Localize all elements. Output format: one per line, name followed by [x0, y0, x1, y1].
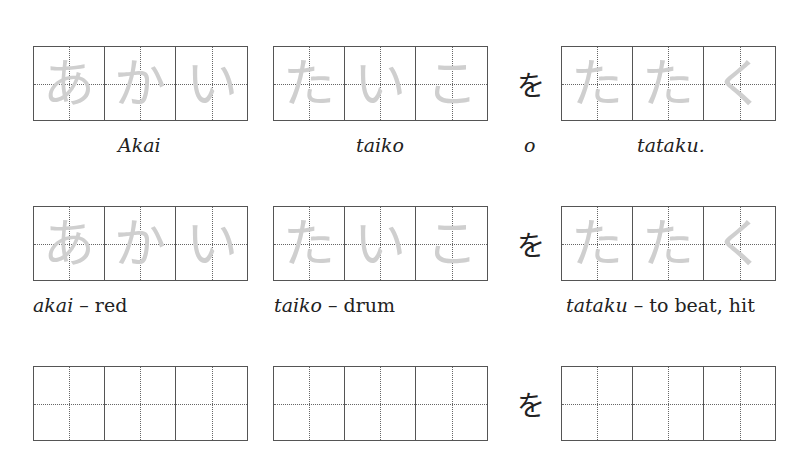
gloss-tataku: tataku – to beat, hit [566, 294, 755, 316]
practice-grid-akai-row1: あ か い [33, 46, 248, 121]
trace-kana: く [704, 47, 775, 120]
practice-cell: か [105, 47, 176, 120]
practice-cell [345, 367, 416, 440]
practice-cell [274, 367, 345, 440]
particle-wo: を [517, 224, 545, 264]
trace-kana: い [176, 47, 247, 120]
practice-cell: た [633, 207, 704, 280]
practice-cell [704, 367, 775, 440]
trace-kana: こ [416, 47, 487, 120]
practice-cell [105, 367, 176, 440]
trace-kana: あ [34, 207, 104, 280]
practice-cell: こ [416, 47, 487, 120]
gloss-akai: akai – red [33, 294, 127, 316]
caption-o: o [524, 134, 535, 156]
practice-grid-taiko-row1: た い こ [273, 46, 488, 121]
trace-kana: か [105, 207, 175, 280]
practice-cell [562, 367, 633, 440]
particle-wo: を [517, 384, 545, 424]
caption-akai: Akai [118, 134, 161, 156]
practice-cell: あ [34, 47, 105, 120]
trace-kana: た [633, 207, 703, 280]
practice-cell: い [345, 207, 416, 280]
trace-kana: こ [416, 207, 487, 280]
practice-grid-blank-2 [273, 366, 488, 441]
practice-cell: か [105, 207, 176, 280]
trace-kana: た [274, 47, 344, 120]
practice-cell: た [633, 47, 704, 120]
practice-cell: い [176, 47, 247, 120]
practice-cell: こ [416, 207, 487, 280]
practice-cell: た [562, 207, 633, 280]
practice-cell: い [176, 207, 247, 280]
practice-cell: た [274, 207, 345, 280]
practice-grid-akai-row2: あ か い [33, 206, 248, 281]
practice-grid-blank-3 [561, 366, 776, 441]
trace-kana: く [704, 207, 775, 280]
caption-tataku: tataku. [637, 134, 705, 156]
practice-cell [176, 367, 247, 440]
trace-kana: た [562, 207, 632, 280]
practice-cell: い [345, 47, 416, 120]
trace-kana: た [633, 47, 703, 120]
gloss-taiko: taiko – drum [274, 294, 395, 316]
practice-cell: あ [34, 207, 105, 280]
practice-cell: く [704, 207, 775, 280]
practice-cell [416, 367, 487, 440]
practice-cell: た [274, 47, 345, 120]
practice-grid-tataku-row1: た た く [561, 46, 776, 121]
trace-kana: た [274, 207, 344, 280]
practice-grid-taiko-row2: た い こ [273, 206, 488, 281]
practice-cell [633, 367, 704, 440]
trace-kana: い [176, 207, 247, 280]
caption-taiko: taiko [356, 134, 404, 156]
trace-kana: い [345, 47, 415, 120]
trace-kana: あ [34, 47, 104, 120]
trace-kana: か [105, 47, 175, 120]
trace-kana: た [562, 47, 632, 120]
practice-grid-tataku-row2: た た く [561, 206, 776, 281]
trace-kana: い [345, 207, 415, 280]
practice-cell [34, 367, 105, 440]
practice-grid-blank-1 [33, 366, 248, 441]
practice-cell: く [704, 47, 775, 120]
practice-cell: た [562, 47, 633, 120]
particle-wo: を [517, 64, 545, 104]
